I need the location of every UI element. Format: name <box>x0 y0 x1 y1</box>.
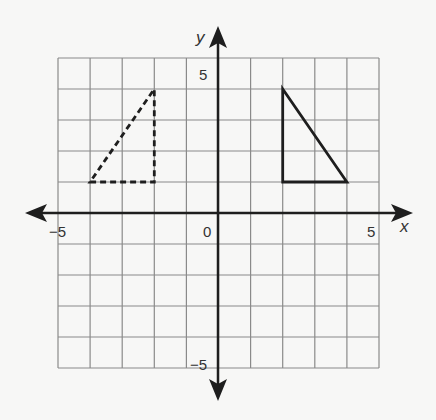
axis-labels: y x 5 −5 0 5 −5 <box>49 28 409 373</box>
axes <box>25 26 413 401</box>
coordinate-plane: y x 5 −5 0 5 −5 <box>0 0 436 420</box>
y-tick-min: −5 <box>190 356 207 373</box>
x-tick-min: −5 <box>49 223 66 240</box>
x-tick-origin: 0 <box>203 223 211 240</box>
y-axis-label: y <box>195 28 206 47</box>
x-tick-max: 5 <box>367 223 375 240</box>
x-axis-label: x <box>399 217 409 236</box>
y-tick-max: 5 <box>199 66 207 83</box>
